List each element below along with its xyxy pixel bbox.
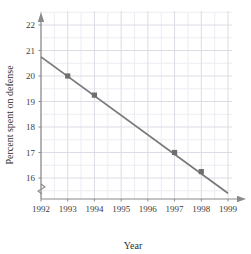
- x-tick-label: 1999: [219, 204, 238, 214]
- y-tick-labels: 16171819202122: [26, 20, 36, 183]
- x-tick-labels: 19921993199419951996199719981999: [32, 204, 238, 214]
- y-tick-label: 20: [26, 71, 36, 81]
- y-tick-label: 18: [26, 122, 36, 132]
- y-axis-arrow-icon: [38, 12, 44, 22]
- y-tick-label: 17: [26, 148, 36, 158]
- line-chart: 16171819202122 1992199319941995199619971…: [0, 0, 251, 254]
- x-tick-label: 1992: [32, 204, 50, 214]
- data-point-marker: [172, 150, 177, 155]
- x-axis-title: Year: [124, 240, 143, 251]
- y-tick-label: 19: [26, 97, 36, 107]
- x-tick-label: 1994: [85, 204, 104, 214]
- x-tick-label: 1995: [112, 204, 131, 214]
- x-tick-label: 1996: [139, 204, 158, 214]
- x-axis-arrow-icon: [237, 196, 246, 202]
- data-point-marker: [199, 169, 204, 174]
- y-axis-title: Percent spent on defense: [4, 65, 15, 165]
- x-tick-label: 1997: [166, 204, 185, 214]
- y-tick-label: 16: [26, 173, 36, 183]
- x-tick-label: 1998: [192, 204, 211, 214]
- data-point-marker: [65, 73, 70, 78]
- x-tick-label: 1993: [59, 204, 78, 214]
- y-tick-label: 22: [26, 20, 35, 30]
- y-tick-label: 21: [26, 46, 35, 56]
- data-point-marker: [92, 93, 97, 98]
- chart-figure: 16171819202122 1992199319941995199619971…: [0, 0, 251, 254]
